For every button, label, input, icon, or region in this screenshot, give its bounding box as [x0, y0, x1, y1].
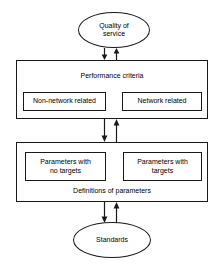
- node-definitions-of-parameters[interactable]: Parameters with no targets Parameters wi…: [16, 142, 208, 202]
- arrow-down-icon: [100, 202, 109, 223]
- node-network-related-label: Network related: [137, 97, 186, 105]
- node-quality-of-service[interactable]: Quality of service: [78, 12, 150, 48]
- arrow-up-icon: [112, 202, 121, 223]
- node-parameters-with-no-targets-label: Parameters with no targets: [40, 158, 91, 174]
- arrow-up-icon: [112, 119, 121, 142]
- node-standards[interactable]: Standards: [73, 222, 151, 258]
- arrow-down-icon: [100, 119, 109, 142]
- connector-qos-to-performance: [100, 48, 122, 60]
- node-standards-label: Standards: [96, 236, 128, 244]
- arrow-up-icon: [112, 48, 121, 60]
- node-network-related[interactable]: Network related: [122, 92, 202, 111]
- arrow-down-icon: [100, 48, 109, 60]
- node-performance-criteria[interactable]: Performance criteria Non-network related…: [16, 60, 208, 119]
- node-quality-of-service-label: Quality of service: [99, 22, 129, 38]
- connector-performance-to-definitions: [100, 119, 122, 142]
- node-parameters-with-targets[interactable]: Parameters with targets: [123, 152, 202, 181]
- node-definitions-of-parameters-label: Definitions of parameters: [17, 187, 207, 194]
- node-performance-criteria-label: Performance criteria: [17, 72, 207, 79]
- connector-definitions-to-standards: [100, 202, 122, 223]
- node-parameters-with-no-targets[interactable]: Parameters with no targets: [25, 152, 106, 181]
- node-non-network-related[interactable]: Non-network related: [23, 92, 106, 111]
- node-parameters-with-targets-label: Parameters with targets: [137, 158, 188, 174]
- diagram-canvas: Quality of service Performance criteria …: [0, 0, 224, 269]
- node-non-network-related-label: Non-network related: [33, 97, 96, 105]
